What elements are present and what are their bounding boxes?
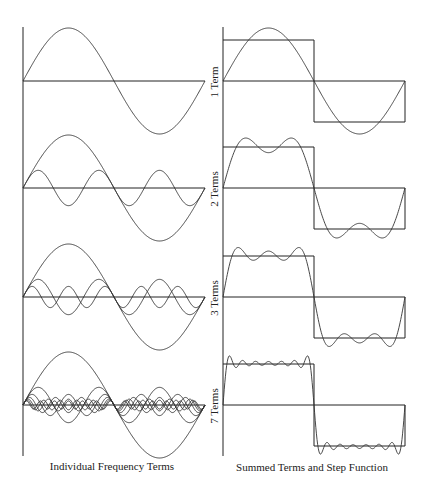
- row-label-1: 1 Term: [208, 52, 220, 112]
- summed-terms-panels: [223, 28, 405, 454]
- row-label-4: 7 Terms: [208, 376, 220, 436]
- row-label-2: 2 Terms: [208, 159, 220, 219]
- row-label-3: 3 Terms: [208, 268, 220, 328]
- individual-terms-panels: [23, 28, 205, 458]
- right-caption: Summed Terms and Step Function: [232, 461, 392, 473]
- left-caption: Individual Frequency Terms: [42, 460, 182, 472]
